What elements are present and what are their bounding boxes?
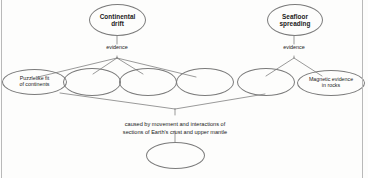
- node-blank-evidence-2[interactable]: [119, 68, 177, 96]
- node-seafloor-spreading-label: Seafloor spreading: [278, 13, 313, 27]
- page-rule-right: [362, 0, 363, 178]
- page-rule-left: [1, 0, 2, 178]
- edge-converge-left: [60, 93, 175, 109]
- node-continental-drift-label: Continental drift: [98, 13, 138, 27]
- edge-label-evidence-right: evidence: [269, 44, 319, 50]
- node-magnetic-evidence[interactable]: Magnetic evidence in rocks: [297, 70, 365, 96]
- edge-label-evidence-left: evidence: [92, 44, 142, 50]
- node-blank-evidence-3[interactable]: [176, 68, 234, 96]
- node-puzzlelike-fit-label: Puzzlelike fit of continents: [17, 76, 51, 88]
- node-seafloor-spreading[interactable]: Seafloor spreading: [267, 4, 323, 36]
- node-magnetic-evidence-label: Magnetic evidence in rocks: [307, 77, 355, 89]
- node-blank-evidence-1[interactable]: [63, 68, 121, 96]
- node-blank-evidence-4[interactable]: [237, 68, 295, 96]
- edge-converge-right: [175, 94, 265, 109]
- node-blank-result[interactable]: [146, 142, 205, 169]
- concept-map-canvas: Continental drift Seafloor spreading evi…: [0, 0, 368, 178]
- diagram-caption: caused by movement and interactions of s…: [95, 114, 255, 136]
- node-continental-drift[interactable]: Continental drift: [89, 4, 146, 36]
- node-puzzlelike-fit[interactable]: Puzzlelike fit of continents: [2, 69, 67, 95]
